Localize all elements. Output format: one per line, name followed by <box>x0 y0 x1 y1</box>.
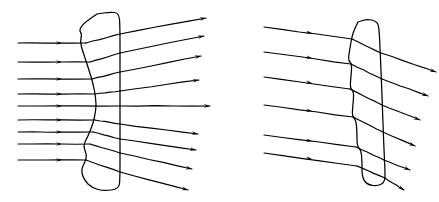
lens-ray-diagram-figure <box>0 0 439 202</box>
diagram-canvas <box>0 0 439 202</box>
